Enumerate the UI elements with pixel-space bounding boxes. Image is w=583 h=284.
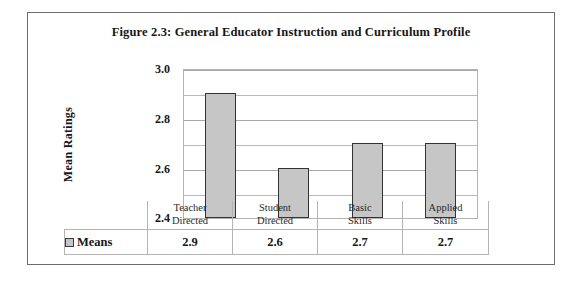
table-row-means: Means 2.9 2.6 2.7 2.7 [65,230,489,255]
legend-label: Means [77,235,112,250]
value-applied-skills: 2.7 [403,230,489,255]
table-row-categories: Teacher Directed Student Directed Basic … [65,201,489,230]
bars-layer [184,70,477,218]
y-axis-title: Mean Ratings [58,69,80,219]
category-label-line1: Basic [318,202,402,215]
figure-frame: Figure 2.3: General Educator Instruction… [27,12,555,265]
category-label-line2: Skills [403,215,488,228]
category-label-basic-skills: Basic Skills [318,201,403,230]
value-basic-skills: 2.7 [318,230,403,255]
category-label-line1: Teacher [148,202,232,215]
bar-slot [404,70,477,218]
legend-means: Means [65,230,148,255]
bar-slot [331,70,404,218]
category-label-applied-skills: Applied Skills [403,201,489,230]
value-teacher-directed: 2.9 [148,230,233,255]
figure-title: Figure 2.3: General Educator Instruction… [28,25,554,40]
category-label-line1: Student [233,202,317,215]
plot-area [183,69,478,219]
category-label-line2: Directed [233,215,317,228]
bar-slot [257,70,330,218]
y-axis-tick-labels: 3.0 2.8 2.6 2.4 [82,69,178,219]
y-tick-label: 3.0 [155,62,170,77]
y-tick-label: 2.6 [155,162,170,177]
bar-teacher-directed[interactable] [205,93,236,218]
category-label-line1: Applied [403,202,488,215]
value-student-directed: 2.6 [233,230,318,255]
bar-slot [184,70,257,218]
category-label-line2: Directed [148,215,232,228]
category-label-teacher-directed: Teacher Directed [148,201,233,230]
legend-inner: Means [65,235,147,250]
category-row-spacer [65,201,148,230]
category-label-student-directed: Student Directed [233,201,318,230]
y-tick-label: 2.8 [155,112,170,127]
y-axis-title-label: Mean Ratings [62,106,77,181]
category-label-line2: Skills [318,215,402,228]
chart-data-table: Teacher Directed Student Directed Basic … [64,201,489,255]
legend-swatch-icon [65,238,74,247]
